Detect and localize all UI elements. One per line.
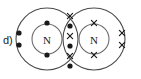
electron-cross	[119, 42, 124, 47]
lewis-diagram-canvas: N N	[0, 0, 141, 79]
electron-dot	[67, 63, 72, 68]
electron-dot	[16, 30, 21, 35]
electron-dot	[44, 52, 49, 57]
lewis-diagram-figure: N N	[0, 0, 141, 79]
electron-dot	[67, 23, 72, 28]
electron-dot	[16, 42, 21, 47]
electron-cross	[119, 30, 124, 35]
electron-cross	[91, 52, 96, 57]
electron-dot	[67, 43, 72, 48]
option-label: d)	[3, 34, 13, 46]
electron-cross	[91, 20, 96, 25]
electron-dot	[44, 20, 49, 25]
electron-cross	[67, 33, 72, 38]
bonding-pair-2	[67, 33, 72, 48]
right-atom-symbol: N	[90, 34, 98, 46]
left-lone-pair-electrons	[16, 30, 21, 47]
right-lone-pair-electrons	[119, 30, 124, 47]
left-atom-symbol: N	[43, 34, 51, 46]
